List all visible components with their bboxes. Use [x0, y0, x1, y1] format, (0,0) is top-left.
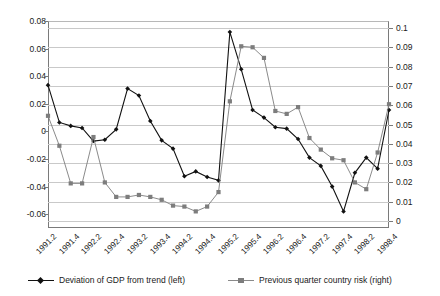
gridline: [48, 28, 389, 29]
legend-marker-square-icon: [228, 275, 254, 285]
y-tick-label-right: 0.1: [396, 23, 408, 33]
y-tick-mark-left: [44, 76, 48, 77]
gridline: [48, 163, 389, 164]
gridline: [48, 67, 389, 68]
y-tick-mark-right: [389, 125, 393, 126]
legend-item-risk: Previous quarter country risk (right): [228, 275, 392, 285]
gridline: [48, 86, 389, 87]
y-tick-mark-left: [44, 104, 48, 105]
y-tick-mark-right: [389, 144, 393, 145]
y-tick-label-right: 0.02: [396, 177, 413, 187]
gridline: [48, 125, 389, 126]
y-tick-mark-right: [389, 47, 393, 48]
y-tick-mark-right: [389, 221, 393, 222]
y-tick-label-right: 0.06: [396, 100, 413, 110]
y-tick-label-right: 0.04: [396, 139, 413, 149]
legend-marker-diamond-icon: [28, 275, 54, 285]
y-tick-mark-right: [389, 86, 393, 87]
y-tick-label-right: 0.03: [396, 158, 413, 168]
y-tick-label-right: 0.01: [396, 197, 413, 207]
y-tick-label-right: 0.07: [396, 81, 413, 91]
y-tick-mark-left: [44, 214, 48, 215]
y-tick-label-right: 0: [396, 216, 401, 226]
y-tick-mark-right: [389, 67, 393, 68]
chart-legend: Deviation of GDP from trend (left) Previ…: [0, 275, 440, 291]
y-tick-label-right: 0.09: [396, 42, 413, 52]
gridline: [48, 221, 389, 222]
y-tick-mark-right: [389, 202, 393, 203]
y-tick-label-right: 0.08: [396, 62, 413, 72]
gridline: [48, 144, 389, 145]
chart-container: 0.080.060.040.020-0.02-0.04-0.06 0.10.09…: [0, 0, 440, 296]
y-tick-mark-left: [44, 159, 48, 160]
legend-label-risk: Previous quarter country risk (right): [259, 275, 392, 285]
legend-label-gdp: Deviation of GDP from trend (left): [59, 275, 185, 285]
gridline: [48, 202, 389, 203]
gridline: [48, 105, 389, 106]
y-tick-mark-right: [389, 182, 393, 183]
y-tick-mark-left: [44, 21, 48, 22]
y-tick-mark-left: [44, 131, 48, 132]
legend-item-gdp: Deviation of GDP from trend (left): [28, 275, 185, 285]
y-tick-mark-right: [389, 163, 393, 164]
gridline: [48, 47, 389, 48]
y-tick-mark-left: [44, 187, 48, 188]
y-tick-label-right: 0.05: [396, 120, 413, 130]
gridline: [48, 182, 389, 183]
y-tick-mark-left: [44, 49, 48, 50]
y-tick-mark-right: [389, 28, 393, 29]
y-tick-mark-right: [389, 105, 393, 106]
